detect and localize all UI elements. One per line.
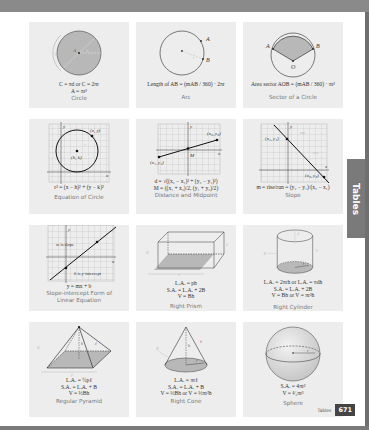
formula: y = mx + b — [67, 283, 92, 290]
card-arc: A B r Length of AB = (mAB / 360) · 2πr A… — [136, 22, 236, 108]
svg-text:b is y-intercept: b is y-intercept — [74, 271, 102, 276]
svg-text:A: A — [205, 36, 210, 42]
card-right-cone: B h ℓ r L.A. = πrℓ S.A. = L.A. + B V = ⅓… — [136, 322, 236, 417]
formula: S.A. = L.A. + B — [168, 384, 204, 391]
svg-text:rise: rise — [313, 150, 319, 155]
formula: S.A. = 4πr² — [280, 383, 305, 390]
card-distance-midpoint: y x (x₂, y₂) (x₁, y₁) M d = √((x₂ − x₁)²… — [136, 119, 236, 214]
svg-text:A: A — [265, 43, 270, 49]
page-edge — [365, 12, 369, 430]
circle-figure-icon: C A r — [49, 25, 109, 81]
card-sphere: r S.A. = 4πr² V = ⁴⁄₃πr³ Sphere — [243, 322, 343, 417]
card-slope: y x (x₁, y₁) (x₂, y₂) run rise m = rise/… — [243, 119, 343, 214]
card-title: Sector of a Circle — [269, 94, 317, 101]
svg-text:m is slope: m is slope — [56, 242, 74, 247]
formula: S.A. = L.A. + 2B — [274, 286, 313, 293]
card-title: Right Prism — [170, 303, 202, 310]
svg-text:O: O — [291, 64, 296, 70]
svg-text:ℓ: ℓ — [95, 341, 97, 346]
svg-text:B: B — [37, 345, 40, 350]
svg-text:B: B — [263, 251, 266, 256]
card-title: Distance and Midpoint — [155, 192, 218, 199]
formula: S.A. = L.A. + B — [61, 384, 97, 391]
card-slope-intercept: y x m is slope b is y-intercept y = mx +… — [29, 225, 129, 311]
card-right-cylinder: B h d r L.A. = 2πrh or L.A. = πdh S.A. =… — [243, 225, 343, 311]
slope-intercept-graph-icon: y x m is slope b is y-intercept — [40, 225, 118, 283]
card-title-line-1: Slope-intercept Form of — [46, 290, 112, 297]
tables-side-tab[interactable]: Tables — [347, 159, 365, 238]
card-right-prism: B h p L.A. = ph S.A. = L.A. + 2B V = Bh … — [136, 225, 236, 311]
page-footer: Tables 671 — [317, 404, 355, 416]
formula: Area sector AOB = (mAB / 360) · πr² — [251, 81, 335, 88]
svg-text:ℓ: ℓ — [200, 339, 202, 344]
svg-text:run: run — [300, 130, 305, 135]
card-sector: A B O r Area sector AOB = (mAB / 360) · … — [243, 22, 343, 108]
formula: V = ⅓Bh — [69, 390, 90, 397]
formula: m = rise/run = (y₂ − y₁)/(x₂ − x₁) — [256, 184, 329, 191]
svg-text:h: h — [81, 341, 83, 346]
formula-grid: C A r C = πd or C = 2πr A = πr² Circle A… — [29, 22, 343, 417]
card-title: Equation of Circle — [54, 194, 103, 201]
formula: L.A. = πrℓ — [174, 377, 198, 384]
footer-section-label: Tables — [317, 408, 331, 413]
card-title: Arc — [181, 94, 190, 101]
formula: V = Bh or V = πr²h — [272, 292, 315, 299]
sector-figure-icon: A B O r — [263, 25, 323, 81]
arc-figure-icon: A B r — [156, 25, 216, 81]
formula: C = πd or C = 2πr — [59, 81, 99, 88]
formula: Length of AB = (mAB / 360) · 2πr — [147, 81, 224, 88]
sphere-figure-icon: r — [263, 325, 323, 383]
card-title: Right Cone — [171, 398, 202, 405]
formula: L.A. = 2πrh or L.A. = πdh — [264, 279, 323, 286]
svg-text:x: x — [111, 259, 115, 264]
svg-text:h: h — [226, 242, 228, 247]
svg-text:x: x — [217, 151, 221, 156]
svg-text:B: B — [156, 346, 159, 351]
svg-text:h: h — [188, 343, 190, 348]
formula: L.A. = ph — [175, 280, 197, 287]
card-title: Regular Pyramid — [56, 398, 102, 405]
circle-graph-icon: y x (x, y) (h, k) r — [46, 122, 112, 184]
slope-graph-icon: y x (x₁, y₁) (x₂, y₂) run rise — [255, 122, 331, 184]
formula: S.A. = L.A. + 2B — [167, 287, 206, 294]
card-title: Slope — [285, 192, 301, 199]
svg-text:B: B — [146, 250, 149, 255]
svg-text:x: x — [324, 164, 328, 169]
prism-figure-icon: B h p — [144, 228, 228, 276]
distance-graph-icon: y x (x₂, y₂) (x₁, y₁) M — [148, 122, 224, 178]
svg-text:B: B — [316, 43, 320, 49]
cylinder-figure-icon: B h d r — [263, 228, 323, 277]
card-equation-of-circle: y x (x, y) (h, k) r r² = (x − h)² + (y −… — [29, 119, 129, 214]
formula: V = ⁴⁄₃πr³ — [282, 390, 303, 397]
page-number: 671 — [335, 404, 355, 416]
formula: A = πr² — [71, 88, 87, 95]
card-circle: C A r C = πd or C = 2πr A = πr² Circle — [29, 22, 129, 108]
cone-figure-icon: B h ℓ r — [156, 325, 216, 377]
formula: V = Bh — [178, 293, 194, 300]
svg-text:r: r — [304, 54, 306, 59]
svg-text:d: d — [297, 231, 299, 236]
formula: V = ⅓Bh or V = ⅓πr²h — [160, 390, 211, 397]
formula: M = ((x₁ + x₂)/2, (y₁ + y₂)/2) — [154, 185, 219, 192]
formula: L.A. = ½pℓ — [66, 377, 92, 384]
pyramid-figure-icon: B h ℓ p — [37, 325, 121, 377]
card-title: Circle — [71, 95, 87, 102]
card-regular-pyramid: B h ℓ p L.A. = ½pℓ S.A. = L.A. + B V = ⅓… — [29, 322, 129, 417]
svg-text:M: M — [189, 153, 195, 158]
formula: d = √((x₂ − x₁)² + (y₂ − y₁)²) — [154, 178, 217, 185]
svg-text:h: h — [316, 248, 318, 253]
card-title: Right Cylinder — [273, 304, 313, 311]
svg-text:B: B — [206, 57, 210, 63]
formula: r² = (x − h)² + (y − k)² — [54, 184, 103, 191]
svg-text:p: p — [177, 272, 180, 276]
page-bottom-edge — [0, 426, 369, 430]
card-title-line-2: Linear Equation — [57, 297, 101, 304]
card-title: Sphere — [283, 400, 303, 407]
side-tab-label: Tables — [351, 182, 361, 214]
